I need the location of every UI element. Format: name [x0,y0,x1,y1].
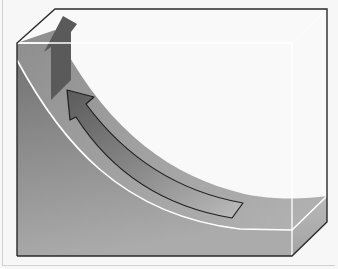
box-curve-diagram [0,0,338,269]
diagram-frame [0,0,338,269]
